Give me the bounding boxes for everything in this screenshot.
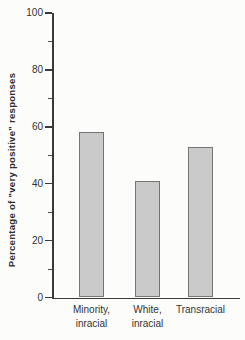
y-axis-line [52,13,54,299]
y-minor-tick-90 [48,41,52,42]
y-tick-label-100: 100 [13,8,43,18]
y-tick-label-0: 0 [13,293,43,303]
y-major-tick-20 [45,240,52,242]
y-major-tick-100 [45,12,52,14]
y-tick-label-80: 80 [13,65,43,75]
bar-transracial [188,147,213,298]
x-category-label-transracial: Transracial [166,303,236,317]
y-tick-label-60: 60 [13,122,43,132]
y-minor-tick-50 [48,155,52,156]
y-major-tick-60 [45,126,52,128]
y-minor-tick-10 [48,269,52,270]
bar-white-inracial [135,181,160,298]
y-major-tick-0 [45,297,52,299]
bar-minority-inracial [79,132,104,297]
y-minor-tick-70 [48,98,52,99]
y-major-tick-40 [45,183,52,185]
y-major-tick-80 [45,69,52,71]
bar-chart-figure: Percentage of "very positive" responses … [0,0,245,340]
x-axis-line [52,298,240,300]
y-minor-tick-30 [48,212,52,213]
y-tick-label-40: 40 [13,179,43,189]
y-tick-label-20: 20 [13,236,43,246]
